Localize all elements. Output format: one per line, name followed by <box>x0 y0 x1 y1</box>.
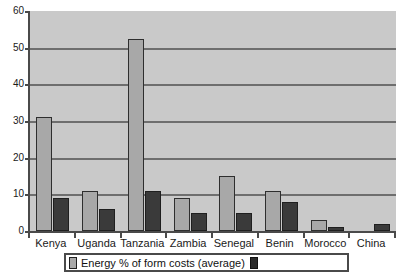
x-axis-tick-label: Senegal <box>214 236 254 250</box>
x-axis-tick-mark <box>74 233 76 238</box>
bar <box>282 202 298 231</box>
y-axis-tick-label: 30 <box>2 116 24 126</box>
x-axis-tick-label: Uganda <box>77 236 116 250</box>
x-axis-tick-label: Tanzania <box>120 236 164 250</box>
x-axis-tick-mark <box>348 233 350 238</box>
bar <box>99 209 115 231</box>
bar <box>265 191 281 231</box>
bar <box>236 213 252 231</box>
bar <box>219 176 235 231</box>
bar-group <box>30 11 76 231</box>
y-axis-tick-label: 0 <box>2 226 24 236</box>
chart-legend: Energy % of form costs (average) <box>64 253 349 272</box>
bar-group <box>259 11 305 231</box>
bar <box>174 198 190 231</box>
legend-label-series-1: Energy % of form costs (average) <box>81 257 245 269</box>
x-axis-tick-mark <box>120 233 122 238</box>
legend-swatch-series-1-icon <box>69 257 77 269</box>
x-axis-tick-mark <box>211 233 213 238</box>
bar <box>145 191 161 231</box>
bar-group <box>167 11 213 231</box>
bar <box>311 220 327 231</box>
bar <box>328 227 344 231</box>
x-axis-tick-mark <box>28 233 30 238</box>
bar-group <box>305 11 351 231</box>
bar-group <box>350 11 396 231</box>
bar-group <box>76 11 122 231</box>
y-axis-tick-label: 60 <box>2 6 24 16</box>
x-axis-tick-label: Kenya <box>35 236 66 250</box>
x-axis: KenyaUgandaTanzaniaZambiaSenegalBeninMor… <box>28 236 394 252</box>
bars-layer <box>30 11 394 231</box>
x-axis-tick-mark <box>257 233 259 238</box>
bar-group <box>213 11 259 231</box>
bar <box>128 39 144 232</box>
x-axis-tick-mark <box>394 233 396 238</box>
legend-swatch-series-2-icon <box>250 257 258 269</box>
x-axis-tick-label: Zambia <box>170 236 207 250</box>
bar <box>191 213 207 231</box>
y-axis-tick-label: 20 <box>2 153 24 163</box>
x-axis-tick-mark <box>303 233 305 238</box>
x-axis-tick-label: China <box>357 236 386 250</box>
y-axis: 6050403020100 <box>0 0 24 280</box>
x-axis-tick-mark <box>165 233 167 238</box>
y-axis-tick-label: 40 <box>2 79 24 89</box>
bar <box>374 224 390 231</box>
bar <box>82 191 98 231</box>
x-axis-tick-label: Morocco <box>304 236 346 250</box>
bar-chart: 6050403020100 KenyaUgandaTanzaniaZambiaS… <box>0 0 409 280</box>
y-axis-tick-label: 10 <box>2 189 24 199</box>
bar <box>53 198 69 231</box>
bar <box>36 117 52 231</box>
x-axis-tick-label: Benin <box>266 236 294 250</box>
y-axis-tick-label: 50 <box>2 43 24 53</box>
bar-group <box>122 11 168 231</box>
